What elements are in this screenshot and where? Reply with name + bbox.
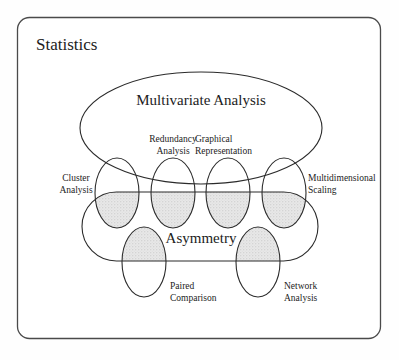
venn-diagram: Statistics Multivariate Analysis Asymmet…	[0, 0, 399, 360]
page-title: Statistics	[36, 35, 97, 54]
redundancy-analysis-label-line2: Analysis	[156, 146, 190, 156]
network-analysis-label-line2: Analysis	[284, 293, 318, 303]
paired-comparison-label-line2: Comparison	[170, 293, 217, 303]
graphical-representation-label-line1: Graphical	[195, 134, 233, 144]
cluster-analysis-label-line2: Analysis	[59, 185, 93, 195]
redundancy-analysis-label-line1: Redundancy	[149, 134, 197, 144]
paired-comparison-label-line1: Paired	[170, 281, 195, 291]
multivariate-analysis-label: Multivariate Analysis	[136, 92, 266, 108]
network-analysis-label-line1: Network	[284, 281, 317, 291]
multidimensional-scaling-label-line1: Multidimensional	[308, 173, 376, 183]
multidimensional-scaling-label-line2: Scaling	[308, 185, 337, 195]
figure-canvas: Statistics Multivariate Analysis Asymmet…	[0, 0, 399, 360]
asymmetry-label: Asymmetry	[166, 230, 237, 246]
graphical-representation-label-line2: Representation	[195, 146, 252, 156]
cluster-analysis-label-line1: Cluster	[62, 173, 90, 183]
